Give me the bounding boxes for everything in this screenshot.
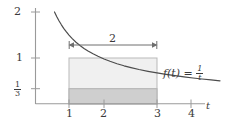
fraction-denominator: 3 bbox=[14, 90, 21, 98]
x-tick-label-3: 3 bbox=[154, 108, 161, 119]
measure-label-width: 2 bbox=[106, 33, 119, 44]
x-tick-label-2: 2 bbox=[100, 108, 107, 119]
x-tick-label-1: 1 bbox=[66, 108, 73, 119]
y-tick-label-2: 2 bbox=[14, 6, 21, 17]
lower-rectangle bbox=[69, 89, 157, 104]
function-fraction-denominator: t bbox=[196, 74, 203, 82]
x-axis-label: t bbox=[206, 101, 210, 111]
y-tick-label-1: 1 bbox=[16, 52, 23, 63]
y-tick-label-one-third: 1 3 bbox=[14, 81, 21, 99]
figure-container: 2 1 1 3 1 2 3 4 t 2 f(t) = 1 t bbox=[0, 0, 231, 127]
function-label: f(t) = 1 t bbox=[163, 65, 203, 83]
fraction-one-third: 1 3 bbox=[14, 81, 21, 99]
x-tick-label-4: 4 bbox=[188, 108, 195, 119]
function-label-prefix: f(t) = bbox=[163, 67, 193, 80]
function-label-fraction: 1 t bbox=[196, 65, 203, 83]
